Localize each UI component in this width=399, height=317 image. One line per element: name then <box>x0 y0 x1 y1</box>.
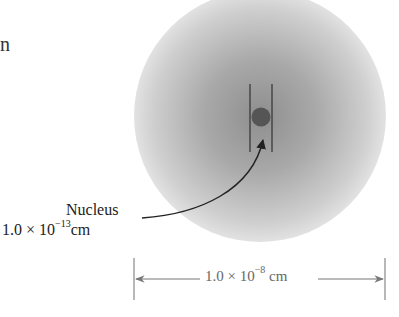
atom-dimension-unit: cm <box>265 268 287 284</box>
nucleus-size-exponent: −13 <box>55 218 71 229</box>
atom-dimension-label: 1.0 × 10−8 cm <box>203 268 289 285</box>
atom-dimension-exponent: −8 <box>255 264 266 275</box>
nucleus-size-label: 1.0 × 10−13cm <box>2 221 90 239</box>
nucleus-size-mantissa: 1.0 × 10 <box>2 221 55 238</box>
partial-text: n <box>0 33 10 56</box>
nucleus-dot <box>252 108 271 127</box>
atom-dimension-mantissa: 1.0 × 10 <box>205 268 255 284</box>
nucleus-label: Nucleus <box>66 201 118 219</box>
nucleus-size-unit: cm <box>71 221 91 238</box>
atom-diagram <box>0 0 399 317</box>
